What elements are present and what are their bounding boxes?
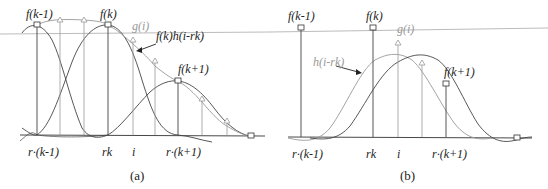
xtick-rk: rk <box>102 145 113 159</box>
arrow-line <box>140 44 156 50</box>
xtick-i: i <box>132 145 135 159</box>
xtick-rkp1: r·(k+1) <box>166 145 201 159</box>
baseline <box>288 137 532 138</box>
xtick-rkp1: r·(k+1) <box>432 147 467 161</box>
label-fkp1: f(k+1) <box>178 62 209 76</box>
label-fk: f(k) <box>100 7 117 21</box>
xtick-rkm1: r·(k-1) <box>28 145 59 159</box>
kernel-curve-kp1 <box>108 81 250 136</box>
square-marker-fkm1 <box>298 25 304 30</box>
label-gi: g(i) <box>132 19 149 33</box>
label-fkm1: f(k-1) <box>288 9 315 23</box>
label-h: h(i-rk) <box>313 55 344 69</box>
label-fkm1: f(k-1) <box>26 7 53 21</box>
square-marker-fk <box>105 22 111 27</box>
triangle-marker <box>419 60 425 65</box>
label-gi: g(i) <box>397 22 414 36</box>
square-marker-fk <box>370 25 376 30</box>
label-fk: f(k) <box>366 9 383 23</box>
baseline <box>20 135 265 136</box>
square-marker-end <box>514 135 520 140</box>
square-marker-fkp1 <box>175 78 181 83</box>
caption-a: (a) <box>130 168 144 183</box>
square-marker-fkp1 <box>443 81 449 86</box>
triangle-marker-gi <box>395 40 401 45</box>
panel-b: f(k-1) f(k) g(i) h(i-rk) f(k+1) r·(k-1) … <box>270 9 548 183</box>
arrow-head-icon <box>356 69 362 75</box>
xtick-i: i <box>397 147 400 161</box>
square-marker-fkm1 <box>34 22 40 27</box>
label-fkh: f(k)h(i-rk) <box>156 29 204 43</box>
square-marker-end <box>248 133 254 138</box>
triangle-marker <box>152 58 158 63</box>
xtick-rkm1: r·(k-1) <box>292 147 323 161</box>
interpolation-diagram: f(k-1) f(k) g(i) f(k)h(i-rk) f(k+1) r·(k… <box>0 0 548 189</box>
g-curve <box>37 20 250 136</box>
panel-a: f(k-1) f(k) g(i) f(k)h(i-rk) f(k+1) r·(k… <box>0 7 270 183</box>
kernel-tail <box>22 128 37 135</box>
triangle-marker <box>130 37 136 42</box>
label-fkp1: f(k+1) <box>444 65 475 79</box>
xtick-rk: rk <box>366 147 377 161</box>
caption-b: (b) <box>400 168 415 183</box>
